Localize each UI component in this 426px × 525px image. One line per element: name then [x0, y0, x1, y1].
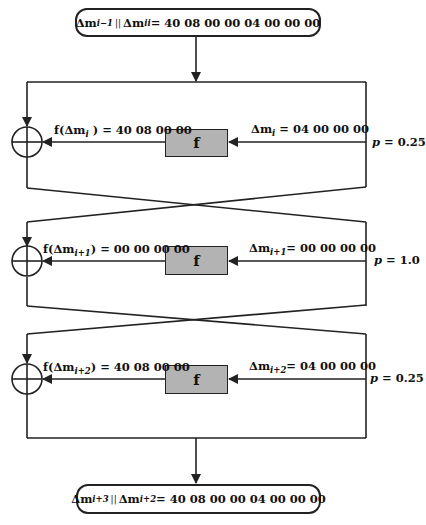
xor-icon-round2 — [12, 246, 42, 276]
prob-value: = 0.25 — [382, 371, 424, 385]
output-left-var: Δm — [71, 492, 92, 506]
input-var: Δm — [249, 359, 270, 373]
xor-icon-round1 — [12, 127, 42, 157]
round2-output-label: f(Δmi+1) = 00 00 00 00 — [43, 242, 190, 260]
input-var: Δm — [249, 241, 270, 255]
f-label: f — [193, 371, 199, 389]
output-value: = 40 08 00 00 04 00 00 00 — [156, 492, 326, 506]
f-label: f — [193, 252, 199, 270]
output-prefix: f(Δm — [54, 123, 85, 137]
prob-value: = 0.25 — [384, 135, 426, 149]
prob-var: p — [370, 371, 378, 385]
output-sub: i+1 — [74, 248, 90, 258]
xor-icon-round3 — [12, 364, 42, 394]
prob-var: p — [374, 253, 382, 267]
input-sub: i+2 — [270, 365, 286, 375]
round2-input-label: Δmi+1= 00 00 00 00 — [249, 241, 376, 259]
output-suffix: ) = 40 08 00 00 — [91, 360, 190, 374]
input-var: Δm — [251, 122, 272, 136]
round1-probability: p = 0.25 — [372, 135, 426, 149]
output-prefix: f(Δm — [43, 360, 74, 374]
output-sep: || — [111, 494, 117, 504]
input-value: = 04 00 00 00 — [286, 359, 376, 373]
output-left-sub: i+3 — [92, 494, 108, 504]
f-label: f — [193, 134, 199, 152]
output-terminal: Δmi+3 || Δmi+2 = 40 08 00 00 04 00 00 00 — [76, 484, 321, 514]
output-sub: i+2 — [74, 366, 90, 376]
prob-value: = 1.0 — [386, 253, 420, 267]
input-sep: || — [115, 18, 121, 28]
input-left-sub: i−1 — [97, 18, 113, 28]
output-suffix: ) = 00 00 00 00 — [91, 242, 190, 256]
prob-var: p — [372, 135, 380, 149]
input-left-var: Δm — [76, 16, 97, 30]
output-right-var: Δm — [119, 492, 140, 506]
round3-probability: p = 0.25 — [370, 371, 424, 385]
output-right-sub: i+2 — [140, 494, 156, 504]
input-terminal: Δmi−1 || Δmii = 40 08 00 00 04 00 00 00 — [75, 8, 321, 37]
output-suffix: ) = 40 08 00 00 — [89, 123, 192, 137]
input-sub: i — [272, 128, 275, 138]
round3-input-label: Δmi+2= 04 00 00 00 — [249, 359, 376, 377]
input-right-var: Δm — [123, 16, 144, 30]
round3-output-label: f(Δmi+2) = 40 08 00 00 — [43, 360, 190, 378]
input-value: = 00 00 00 00 — [286, 241, 376, 255]
output-prefix: f(Δm — [43, 242, 74, 256]
input-sub: i+1 — [270, 247, 286, 257]
input-value: = 04 00 00 00 — [279, 122, 369, 136]
round1-input-label: Δmi = 04 00 00 00 — [251, 122, 369, 140]
input-value: = 40 08 00 00 04 00 00 00 — [151, 16, 321, 30]
round1-output-label: f(Δmi ) = 40 08 00 00 — [54, 123, 192, 141]
round2-probability: p = 1.0 — [374, 253, 420, 267]
